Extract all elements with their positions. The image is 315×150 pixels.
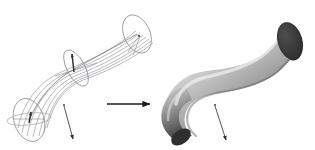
generalized-cylinder-figure — [0, 0, 315, 150]
pointer-annotation-right — [214, 104, 226, 140]
sweep-ruling-lines — [18, 31, 153, 137]
wireframe-panel — [6, 10, 157, 145]
figure-root: Generalized cylinder construction and re… — [0, 0, 315, 150]
surface-panel — [161, 19, 306, 149]
normal-vector-middle — [72, 54, 74, 72]
tube-body — [163, 31, 297, 138]
spine-curve — [29, 34, 137, 120]
pointer-annotation-left — [63, 104, 73, 139]
cross-section-start — [6, 94, 51, 145]
